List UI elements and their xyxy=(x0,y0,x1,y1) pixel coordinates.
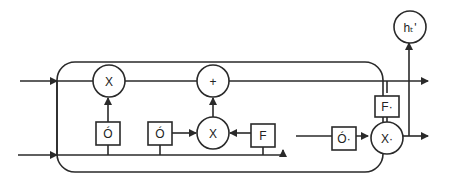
output-gate-box: Ó· xyxy=(332,127,356,150)
svg-text:X·: X· xyxy=(381,132,393,146)
svg-text:+: + xyxy=(209,75,216,89)
input-multiply-node: X xyxy=(197,117,229,149)
svg-text:Ó: Ó xyxy=(155,126,164,141)
svg-text:X: X xyxy=(209,127,217,141)
svg-text:X: X xyxy=(105,75,113,89)
hidden-output-node: hₜ' xyxy=(394,11,426,43)
forget-gate-box: Ó xyxy=(96,122,120,145)
forget-multiply-node: X xyxy=(93,65,125,97)
svg-text:F: F xyxy=(259,129,266,143)
svg-text:hₜ': hₜ' xyxy=(404,21,417,35)
svg-text:Ó·: Ó· xyxy=(337,131,350,146)
add-node: + xyxy=(197,65,229,97)
svg-text:F·: F· xyxy=(381,100,392,114)
candidate-box: F xyxy=(251,124,275,147)
cell-tanh-box: F· xyxy=(375,96,399,117)
lstm-diagram: X + X X· hₜ' Ó Ó F Ó· F· xyxy=(0,0,472,180)
svg-text:Ó: Ó xyxy=(103,126,112,141)
input-gate-box: Ó xyxy=(148,122,172,145)
output-multiply-node: X· xyxy=(371,122,403,154)
